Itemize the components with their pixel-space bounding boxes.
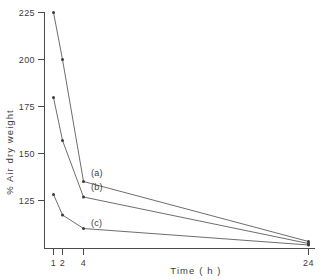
y-tick-label-225: 225 [19,8,35,18]
series-label-b: (b) [91,182,103,192]
series-label-c: (c) [91,218,102,228]
y-axis-title: % Air dry weight [4,109,15,195]
y-tick-label-125: 125 [19,196,35,206]
chart-figure: 225 200 175 150 125 1 2 4 24 Time ( h ) … [0,0,322,280]
data-point-c-24 [307,244,310,247]
x-tick-label-4: 4 [81,258,86,268]
data-point-c-2 [61,214,64,217]
x-tick-label-1: 1 [51,258,56,268]
line-chart-svg: 225 200 175 150 125 1 2 4 24 Time ( h ) … [0,0,322,280]
series-label-a: (a) [91,168,103,178]
data-point-b-2 [61,139,64,142]
data-point-b-4 [82,196,85,199]
y-tick-label-150: 150 [19,149,35,159]
data-point-b-1 [52,96,55,99]
x-axis-title: Time ( h ) [170,265,221,276]
data-point-c-1 [52,193,55,196]
y-tick-label-200: 200 [19,55,35,65]
data-point-a-2 [61,58,64,61]
data-point-a-1 [52,11,55,14]
data-point-a-4 [82,180,85,183]
series-line-a [54,13,309,242]
x-tick-label-24: 24 [303,258,314,268]
x-tick-label-2: 2 [60,258,65,268]
data-point-c-4 [82,227,85,230]
y-tick-label-175: 175 [19,102,35,112]
